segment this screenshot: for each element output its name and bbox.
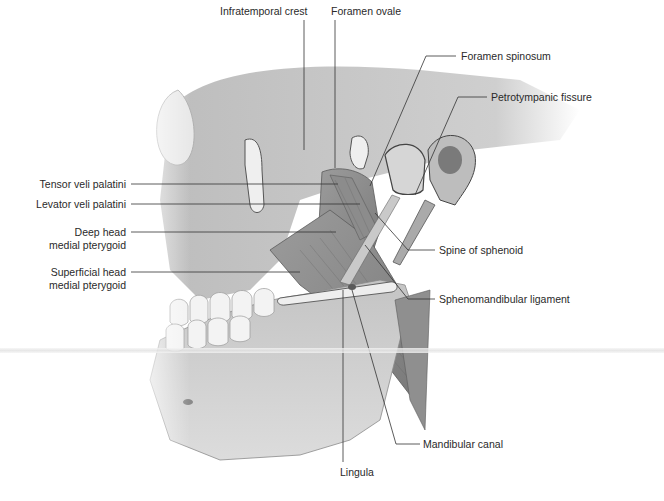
label-deep-head-line1: Deep head [49,226,126,239]
label-foramen-ovale: Foramen ovale [331,5,401,18]
label-sphenomandibular-ligament: Sphenomandibular ligament [439,293,570,306]
label-petrotympanic-fissure: Petrotympanic fissure [491,91,592,104]
ear-canal [438,146,462,174]
label-superficial-head-line2: medial pterygoid [49,279,126,292]
label-deep-head-line2: medial pterygoid [49,239,126,252]
label-lingula: Lingula [340,466,374,479]
label-spine-of-sphenoid: Spine of sphenoid [439,244,523,257]
anatomy-figure: Infratemporal crest Foramen ovale Forame… [0,0,664,501]
zygomatic-arch-cut [350,136,368,169]
label-deep-head-medial-pterygoid: Deep head medial pterygoid [49,226,126,252]
label-superficial-head-line1: Superficial head [49,266,126,279]
label-infratemporal-crest: Infratemporal crest [220,5,308,18]
mandibular-foramen [348,284,356,290]
styloid-process [393,200,435,265]
label-levator-veli-palatini: Levator veli palatini [36,198,126,211]
scan-band [0,348,664,353]
label-mandibular-canal: Mandibular canal [423,438,503,451]
label-tensor-veli-palatini: Tensor veli palatini [40,178,126,191]
label-superficial-head-medial-pterygoid: Superficial head medial pterygoid [49,266,126,292]
label-foramen-spinosum: Foramen spinosum [461,50,551,63]
condyle-fossa [385,144,425,194]
